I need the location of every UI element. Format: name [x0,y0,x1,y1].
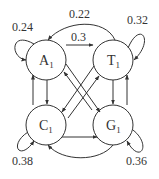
transition-diagram: A1 T1 C1 G1 0.24 0.32 0.22 0.3 0.38 0.36 [0,0,159,179]
node-g-label: G1 [106,118,121,135]
edge-c-self [17,132,34,151]
label-a-to-t: 0.3 [71,30,86,44]
node-c-label: C1 [39,118,53,135]
edge-a-to-g [66,64,100,112]
label-g-self: 0.36 [126,154,147,168]
edge-g-self [127,130,143,152]
label-t-self: 0.32 [127,13,148,27]
node-a-label: A1 [39,53,54,70]
edge-t-self [128,34,145,60]
label-c-self: 0.38 [12,154,33,168]
edge-a-self [15,40,34,60]
label-t-to-a: 0.22 [69,7,90,21]
label-a-self: 0.24 [12,20,33,34]
node-t-label: T1 [107,53,120,70]
edge-g-to-c [48,145,113,158]
